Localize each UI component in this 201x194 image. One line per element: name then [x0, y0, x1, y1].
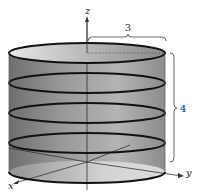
x-axis-arrow-icon — [13, 180, 19, 184]
x-axis-label: x — [8, 180, 14, 191]
cylinder-diagram: 3 4 z x y — [0, 0, 201, 194]
height-label: 4 — [180, 103, 186, 114]
radius-label: 3 — [125, 22, 131, 33]
y-axis-arrow-icon — [178, 173, 184, 178]
height-brace — [170, 53, 177, 162]
z-axis-label: z — [84, 5, 91, 16]
radius-brace — [88, 34, 166, 41]
y-axis-label: y — [185, 167, 192, 178]
